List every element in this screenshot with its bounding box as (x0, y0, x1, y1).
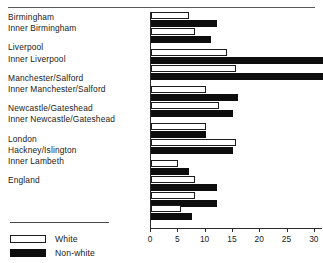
x-axis-line (150, 228, 322, 229)
bar-non-white (151, 184, 217, 191)
x-axis-tick-label: 0 (148, 234, 153, 244)
x-axis-tick (205, 228, 206, 232)
x-axis-tick (314, 228, 315, 232)
category-label: London (8, 134, 148, 145)
category-label: Inner Newcastle/Gateshead (8, 114, 148, 125)
category-label: Liverpool (8, 42, 148, 53)
bar-group-london (151, 160, 323, 208)
bar-white (151, 123, 206, 130)
category-label: Inner Birmingham (8, 23, 148, 34)
chart-legend: White Non-white (10, 233, 95, 261)
category-label: Inner Liverpool (8, 54, 148, 65)
category-label: England (8, 175, 148, 186)
bar-white (151, 28, 195, 35)
legend-swatch-white-icon (10, 235, 46, 243)
legend-swatch-non-white-icon (10, 249, 46, 257)
bar-non-white (151, 73, 323, 80)
bar-non-white (151, 110, 233, 117)
category-label: Inner Lambeth (8, 156, 148, 167)
bar-non-white (151, 36, 211, 43)
legend-divider-rule (10, 222, 109, 223)
bar-non-white (151, 213, 192, 220)
top-divider-rule (8, 7, 315, 8)
bar-white (151, 49, 227, 56)
x-axis: 051015202530 (150, 228, 323, 256)
bar-group-birmingham (151, 12, 323, 44)
x-axis-tick-label: 25 (282, 234, 291, 244)
category-label: Newcastle/Gateshead (8, 103, 148, 114)
label-group-manchester: Manchester/Salford Inner Manchester/Salf… (8, 73, 148, 95)
bar-chart-figure: Birmingham Inner Birmingham Liverpool In… (0, 0, 323, 263)
label-group-london: London Hackney/Islington Inner Lambeth (8, 134, 148, 168)
category-label: Hackney/Islington (8, 145, 148, 156)
bar-white (151, 102, 219, 109)
bar-white (151, 160, 178, 167)
label-group-england: England (8, 175, 148, 186)
bar-white (151, 65, 236, 72)
plot-area (150, 12, 323, 228)
bar-group-manchester (151, 86, 323, 118)
x-axis-tick (150, 228, 151, 232)
label-group-newcastle: Newcastle/Gateshead Inner Newcastle/Gate… (8, 103, 148, 125)
bar-non-white (151, 168, 189, 175)
label-group-liverpool: Liverpool Inner Liverpool (8, 42, 148, 64)
bar-white (151, 192, 195, 199)
x-axis-tick-label: 5 (175, 234, 180, 244)
category-label: Inner Manchester/Salford (8, 84, 148, 95)
x-axis-tick (259, 228, 260, 232)
category-label: Manchester/Salford (8, 73, 148, 84)
x-axis-tick-label: 20 (255, 234, 264, 244)
bar-white (151, 205, 181, 212)
legend-label: White (55, 234, 78, 244)
label-group-birmingham: Birmingham Inner Birmingham (8, 12, 148, 34)
bar-white (151, 12, 189, 19)
x-axis-tick (287, 228, 288, 232)
x-axis-tick-label: 30 (309, 234, 318, 244)
bar-group-liverpool (151, 49, 323, 81)
x-axis-tick (177, 228, 178, 232)
bar-non-white (151, 57, 323, 64)
bar-non-white (151, 20, 217, 27)
legend-label: Non-white (55, 248, 95, 258)
legend-item-non-white: Non-white (10, 247, 95, 259)
category-label-column: Birmingham Inner Birmingham Liverpool In… (8, 12, 148, 194)
x-axis-tick (232, 228, 233, 232)
bar-white (151, 139, 236, 146)
bar-non-white (151, 94, 238, 101)
bar-group-england (151, 205, 323, 221)
bar-non-white (151, 147, 233, 154)
legend-item-white: White (10, 233, 95, 245)
bar-white (151, 86, 206, 93)
bar-white (151, 176, 195, 183)
category-label: Birmingham (8, 12, 148, 23)
x-axis-tick-label: 15 (227, 234, 236, 244)
bar-non-white (151, 131, 206, 138)
bar-group-newcastle (151, 123, 323, 155)
x-axis-tick-label: 10 (200, 234, 209, 244)
